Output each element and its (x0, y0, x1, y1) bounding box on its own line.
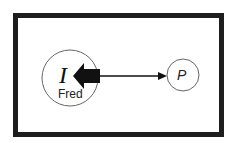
node-p-label: P (177, 68, 186, 82)
node-i-sublabel: Fred (58, 88, 83, 100)
diagram-canvas (0, 0, 233, 143)
thin-arrow-icon (100, 72, 167, 80)
node-i-label: I (59, 63, 67, 87)
